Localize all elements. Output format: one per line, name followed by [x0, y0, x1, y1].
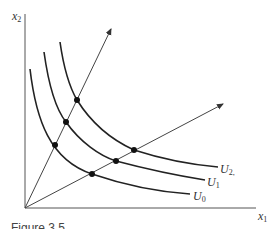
- curve-u0: [30, 69, 190, 194]
- point-u2-shallow: [131, 147, 137, 153]
- steep-ray: [25, 29, 111, 208]
- indifference-curves-diagram: [0, 0, 280, 229]
- point-u0-steep: [52, 142, 58, 148]
- figure-caption: Figure 3.5: [11, 221, 65, 229]
- point-u0-shallow: [89, 171, 95, 177]
- curve-label-u0: U0: [193, 190, 206, 204]
- curve-label-u1: U1: [207, 176, 220, 190]
- point-u1-shallow: [113, 158, 119, 164]
- point-u1-steep: [63, 119, 69, 125]
- curve-label-u2: U2,: [220, 163, 235, 177]
- point-u2-steep: [74, 97, 80, 103]
- y-axis-label: x2: [12, 10, 21, 24]
- x-axis-label: x1: [258, 210, 267, 224]
